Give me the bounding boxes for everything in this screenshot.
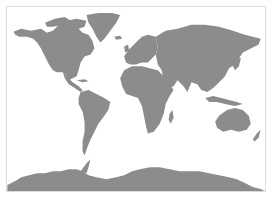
region-antarctica (7, 167, 264, 191)
region-south-america (79, 90, 111, 155)
region-greenland (87, 13, 121, 43)
region-new-zealand (253, 130, 261, 142)
region-indonesia (205, 96, 243, 106)
region-australia (215, 108, 251, 132)
region-iceland (114, 36, 122, 40)
region-madagascar (169, 110, 174, 124)
world-map (6, 6, 266, 192)
region-caribbean (77, 79, 89, 82)
region-europe (124, 35, 158, 65)
world-map-svg (7, 7, 265, 191)
region-antarctic-peninsula (81, 159, 91, 173)
region-north-america (13, 19, 94, 80)
